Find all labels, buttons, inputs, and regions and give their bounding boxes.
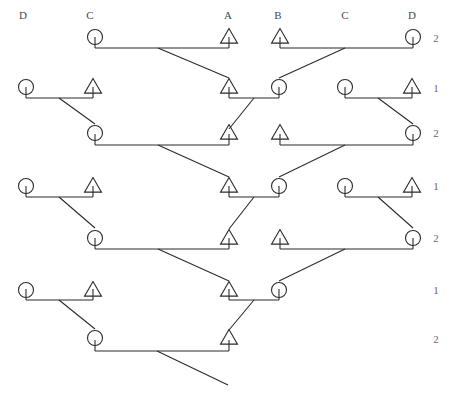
descent-line <box>59 197 95 228</box>
descent-line <box>378 98 413 124</box>
mating-bar <box>95 37 229 48</box>
mating-bar <box>345 186 412 197</box>
mating-bar <box>345 87 412 98</box>
mating-bar <box>280 134 413 145</box>
mating-bar <box>95 340 229 351</box>
mating-bar <box>26 87 93 98</box>
mating-bar <box>95 134 229 145</box>
descent-line <box>279 249 345 281</box>
pedigree-diagram-canvas <box>0 0 453 399</box>
mating-bar-group <box>26 37 413 351</box>
individual-symbol-group <box>19 29 421 346</box>
column-header-label: C <box>341 10 349 21</box>
generation-label: 1 <box>433 285 439 296</box>
column-header-label: D <box>408 10 416 21</box>
generation-label: 2 <box>433 33 439 44</box>
pedigree-chart: DCABCD 2121212 <box>0 0 453 399</box>
generation-label: 1 <box>433 181 439 192</box>
column-header-label: C <box>86 10 94 21</box>
descent-line <box>158 249 229 281</box>
descent-line <box>59 300 95 329</box>
descent-line <box>229 98 254 129</box>
mating-bar <box>26 186 93 197</box>
descent-line-group <box>59 48 413 385</box>
descent-line <box>157 351 228 385</box>
descent-line <box>378 197 413 228</box>
descent-line <box>158 145 229 177</box>
mating-bar <box>280 37 413 48</box>
descent-line <box>229 300 254 330</box>
mating-bar <box>95 238 229 249</box>
descent-line <box>158 48 229 78</box>
descent-line <box>279 145 345 177</box>
descent-line <box>229 197 254 229</box>
column-header-label: B <box>274 10 282 21</box>
descent-line <box>279 48 345 78</box>
generation-label: 1 <box>433 83 439 94</box>
column-header-label: D <box>19 10 27 21</box>
descent-line <box>59 98 95 124</box>
generation-label: 2 <box>433 128 439 139</box>
mating-bar <box>26 289 93 300</box>
generation-label: 2 <box>433 233 439 244</box>
generation-label: 2 <box>433 334 439 345</box>
column-header-label: A <box>224 10 232 21</box>
mating-bar <box>280 238 413 249</box>
